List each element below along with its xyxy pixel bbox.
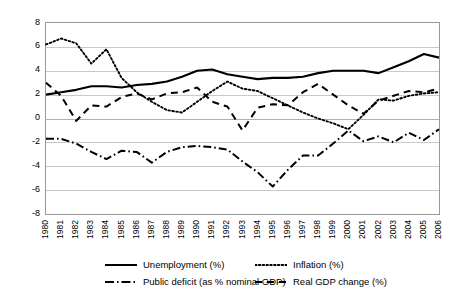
x-tick-label: 1991 (207, 220, 216, 239)
x-tick-label: 2000 (343, 220, 352, 239)
x-tick-label: 1985 (117, 220, 126, 239)
y-tick-label: 2 (35, 89, 40, 98)
y-tick-label: -2 (32, 137, 40, 146)
legend-item-inflation: Inflation (%) (255, 260, 344, 270)
x-tick-label: 2003 (389, 220, 398, 239)
y-tick-label: -8 (32, 209, 40, 218)
y-tick-label: -4 (32, 161, 40, 170)
y-tick-label: 4 (35, 65, 40, 74)
x-tick-label: 1984 (101, 220, 110, 239)
x-tick-label: 2004 (404, 220, 413, 239)
chart-container: 86420-2-4-6-8 19801981198219831984198519… (0, 0, 461, 298)
series-lines (46, 23, 439, 214)
x-tick-label: 1986 (132, 220, 141, 239)
x-tick-label: 1992 (222, 220, 231, 239)
x-tick-label: 1996 (283, 220, 292, 239)
x-tick-label: 1983 (86, 220, 95, 239)
y-tick-label: -6 (32, 185, 40, 194)
y-tick-label: 0 (35, 113, 40, 122)
x-tick-label: 2005 (419, 220, 428, 239)
legend-swatch-dashdot-icon (105, 277, 137, 287)
series-line (46, 129, 439, 186)
x-tick-label: 1982 (71, 220, 80, 239)
legend-swatch-solid-icon (105, 260, 137, 270)
y-axis: 86420-2-4-6-8 (0, 0, 40, 298)
x-tick-label: 2002 (374, 220, 383, 239)
x-tick-label: 1989 (177, 220, 186, 239)
legend-item-unemployment: Unemployment (%) (105, 260, 224, 270)
x-tick-label: 1995 (268, 220, 277, 239)
x-tick-label: 1988 (162, 220, 171, 239)
x-tick-label: 1987 (147, 220, 156, 239)
x-tick-label: 2006 (434, 220, 443, 239)
legend-label-unemployment: Unemployment (%) (143, 260, 224, 270)
x-tick-label: 1981 (56, 220, 65, 239)
x-tick-label: 1999 (328, 220, 337, 239)
legend-swatch-dotted-icon (255, 260, 287, 270)
x-tick-label: 1994 (253, 220, 262, 239)
series-line (46, 39, 439, 130)
x-tick-label: 1980 (41, 220, 50, 239)
x-tick-label: 1997 (298, 220, 307, 239)
legend-label-inflation: Inflation (%) (293, 260, 344, 270)
legend-swatch-dashed-icon (255, 277, 287, 287)
legend-item-gdp: Real GDP change (%) (255, 277, 387, 287)
x-tick-label: 1990 (192, 220, 201, 239)
legend-label-gdp: Real GDP change (%) (293, 277, 387, 287)
plot-area (45, 22, 440, 215)
x-tick-label: 2001 (358, 220, 367, 239)
y-tick-label: 8 (35, 18, 40, 27)
chart-legend: Unemployment (%) Inflation (%) Public de… (0, 258, 461, 298)
x-tick-label: 1998 (313, 220, 322, 239)
series-line (46, 83, 439, 131)
y-tick-label: 6 (35, 41, 40, 50)
x-axis: 1980198119821983198419851986198719881989… (45, 218, 438, 258)
x-tick-label: 1993 (238, 220, 247, 239)
